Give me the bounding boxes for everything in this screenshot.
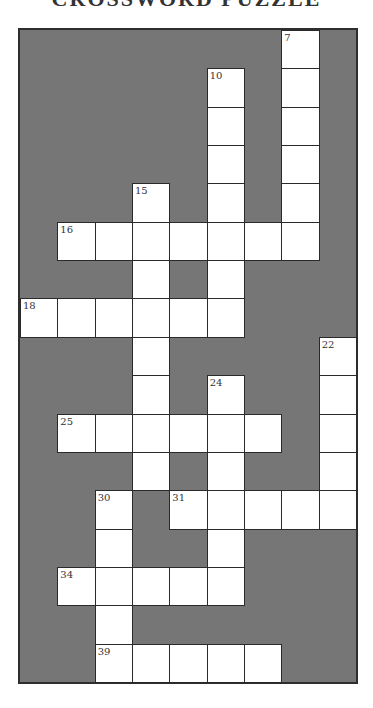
grid-cell-r16-c6[interactable] — [244, 644, 282, 683]
grid-cell-r15-c2[interactable] — [95, 605, 133, 644]
grid-cell-r4-c5[interactable] — [207, 183, 245, 222]
grid-cell-r12-c4[interactable]: 31 — [169, 490, 207, 529]
grid-cell-r12-c2[interactable]: 30 — [95, 490, 133, 529]
clue-number: 31 — [172, 492, 185, 503]
grid-cell-r9-c3[interactable] — [132, 375, 170, 414]
grid-cell-r4-c7[interactable] — [281, 183, 319, 222]
grid-cell-r10-c3[interactable] — [132, 414, 170, 453]
grid-cell-r11-c5[interactable] — [207, 452, 245, 491]
grid-cell-r6-c5[interactable] — [207, 260, 245, 299]
grid-cell-r5-c5[interactable] — [207, 222, 245, 261]
grid-cell-r9-c8[interactable] — [319, 375, 357, 414]
grid-cell-r8-c3[interactable] — [132, 337, 170, 376]
grid-cell-r14-c1[interactable]: 34 — [57, 567, 95, 606]
grid-cell-r5-c4[interactable] — [169, 222, 207, 261]
grid-cell-r14-c2[interactable] — [95, 567, 133, 606]
grid-cell-r3-c7[interactable] — [281, 145, 319, 184]
grid-cell-r10-c1[interactable]: 25 — [57, 414, 95, 453]
clue-number: 34 — [60, 569, 73, 580]
grid-cell-r16-c2[interactable]: 39 — [95, 644, 133, 683]
grid-cell-r3-c5[interactable] — [207, 145, 245, 184]
grid-cell-r7-c2[interactable] — [95, 298, 133, 337]
grid-cell-r10-c2[interactable] — [95, 414, 133, 453]
grid-cell-r2-c7[interactable] — [281, 107, 319, 146]
grid-cell-r7-c5[interactable] — [207, 298, 245, 337]
grid-cell-r5-c6[interactable] — [244, 222, 282, 261]
grid-cell-r5-c1[interactable]: 16 — [57, 222, 95, 261]
grid-cell-r10-c8[interactable] — [319, 414, 357, 453]
grid-cell-r14-c3[interactable] — [132, 567, 170, 606]
clue-number: 24 — [210, 377, 223, 388]
grid-cell-r7-c3[interactable] — [132, 298, 170, 337]
clue-number: 7 — [284, 32, 290, 43]
clue-number: 25 — [60, 416, 73, 427]
grid-cell-r14-c4[interactable] — [169, 567, 207, 606]
grid-cell-r0-c7[interactable]: 7 — [281, 30, 319, 69]
grid-cell-r1-c5[interactable]: 10 — [207, 68, 245, 107]
grid-cell-r8-c8[interactable]: 22 — [319, 337, 357, 376]
grid-cell-r16-c4[interactable] — [169, 644, 207, 683]
grid-cell-r16-c5[interactable] — [207, 644, 245, 683]
grid-cell-r12-c8[interactable] — [319, 490, 357, 529]
grid-cell-r7-c1[interactable] — [57, 298, 95, 337]
puzzle-title: CROSSWORD PUZZLE — [0, 0, 373, 12]
clue-number: 22 — [322, 339, 335, 350]
grid-cell-r2-c5[interactable] — [207, 107, 245, 146]
grid-cell-r11-c3[interactable] — [132, 452, 170, 491]
grid-cell-r4-c3[interactable]: 15 — [132, 183, 170, 222]
grid-cell-r11-c8[interactable] — [319, 452, 357, 491]
grid-cell-r7-c4[interactable] — [169, 298, 207, 337]
grid-cell-r13-c2[interactable] — [95, 529, 133, 568]
clue-number: 10 — [210, 70, 223, 81]
grid-cell-r16-c3[interactable] — [132, 644, 170, 683]
clue-number: 15 — [135, 185, 148, 196]
grid-cell-r10-c6[interactable] — [244, 414, 282, 453]
grid-cell-r7-c0[interactable]: 18 — [20, 298, 58, 337]
grid-cell-r12-c7[interactable] — [281, 490, 319, 529]
grid-cell-r10-c5[interactable] — [207, 414, 245, 453]
grid-cell-r6-c3[interactable] — [132, 260, 170, 299]
grid-cell-r14-c5[interactable] — [207, 567, 245, 606]
crossword-grid: 71015161822242530313439 — [18, 28, 358, 684]
grid-cell-r10-c4[interactable] — [169, 414, 207, 453]
grid-cell-r12-c5[interactable] — [207, 490, 245, 529]
grid-cell-r5-c7[interactable] — [281, 222, 319, 261]
grid-cell-r5-c3[interactable] — [132, 222, 170, 261]
grid-cell-r1-c7[interactable] — [281, 68, 319, 107]
clue-number: 30 — [98, 492, 111, 503]
grid-cell-r5-c2[interactable] — [95, 222, 133, 261]
grid-cell-r9-c5[interactable]: 24 — [207, 375, 245, 414]
grid-cell-r13-c5[interactable] — [207, 529, 245, 568]
clue-number: 39 — [98, 646, 111, 657]
grid-cell-r12-c6[interactable] — [244, 490, 282, 529]
clue-number: 16 — [60, 224, 73, 235]
clue-number: 18 — [23, 300, 36, 311]
